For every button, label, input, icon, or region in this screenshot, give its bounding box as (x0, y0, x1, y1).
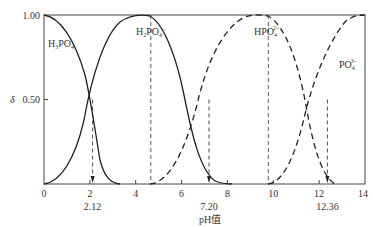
curve-h3po4 (44, 15, 120, 184)
plot-frame (44, 15, 365, 184)
x-tick-label: 0 (42, 188, 47, 199)
curve-po4 (268, 15, 365, 184)
pka1-arrowhead-icon (91, 176, 95, 183)
pka3-label: 12.36 (316, 201, 339, 212)
x-tick-label: 8 (225, 188, 230, 199)
x-tick-label: 4 (133, 188, 138, 199)
pka1-label: 2.12 (84, 201, 102, 212)
y-axis-label: δ (10, 94, 15, 105)
x-tick-label: 12 (314, 188, 324, 199)
species-label-h3po4: H3PO4 (48, 38, 74, 50)
pka3-arrowhead-icon (325, 176, 329, 183)
x-ticks (90, 180, 319, 184)
y-tick-label-top: 1.00 (23, 10, 41, 21)
distribution-chart: 1.00 0.50 δ 0 2 4 6 8 10 12 14 2.12 7.20… (0, 0, 373, 227)
x-axis-label: pH值 (199, 213, 221, 225)
x-tick-label: 10 (268, 188, 278, 199)
pka2-arrowhead-icon (207, 176, 211, 183)
x-tick-label: 2 (87, 188, 92, 199)
x-tick-label: 6 (179, 188, 184, 199)
species-label-po4: PO43− (339, 58, 358, 71)
pka2-label: 7.20 (200, 201, 218, 212)
species-label-h2po4: H2PO4− (136, 26, 166, 38)
curve-hpo4 (150, 15, 335, 184)
species-label-hpo4: HPO42− (254, 25, 280, 38)
y-tick-label-mid: 0.50 (23, 94, 41, 105)
x-tick-label: 14 (358, 188, 368, 199)
